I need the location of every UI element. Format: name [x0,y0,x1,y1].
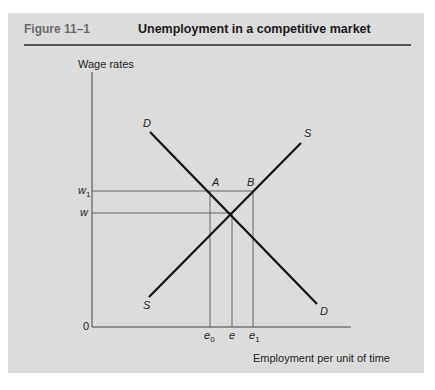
w1-letter: w [78,184,86,196]
demand-label-top: D [143,117,151,129]
supply-label-bottom: S [143,299,150,311]
e1-label: e1 [249,329,260,344]
x-axis-label: Employment per unit of time [253,352,390,364]
demand-label-bottom: D [320,305,328,317]
w1-label: w1 [78,184,90,199]
chart-canvas [0,0,435,390]
w1-subscript: 1 [86,190,90,199]
e-label: e [229,329,235,341]
e0-subscript: 0 [210,335,214,344]
y-axis-label: Wage rates [78,58,134,70]
demand-curve [150,132,317,304]
w-label: w [80,206,88,218]
origin-label: 0 [83,320,89,332]
point-a-label: A [212,176,219,188]
supply-label-top: S [304,127,311,139]
e1-subscript: 1 [255,335,259,344]
supply-curve [149,143,301,297]
point-b-label: B [247,176,254,188]
e0-label: e0 [204,329,215,344]
